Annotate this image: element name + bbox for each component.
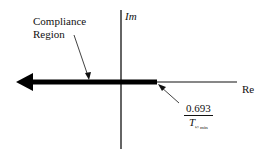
imaginary-axis-label: Im [125,10,137,22]
boundary-numerator: 0.693 [184,102,213,116]
compliance-arrowhead-icon [16,73,33,91]
region-pointer-arrowhead-icon [85,72,91,80]
compliance-label-line2: Region [33,28,65,40]
boundary-subscript: ½ min [195,125,208,130]
compliance-label-line1: Compliance [33,15,86,27]
boundary-denominator: T½ min [184,116,213,134]
real-axis-label: Re [242,83,254,95]
boundary-fraction: 0.693 T½ min [184,102,213,134]
region-pointer-line [74,35,88,76]
boundary-pointer-line [161,87,179,103]
